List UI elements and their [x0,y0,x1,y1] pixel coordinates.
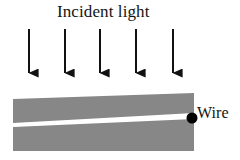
diagram-canvas [0,0,240,160]
incident-light-diagram: Incident light Wire [0,0,240,160]
wire-label: Wire [197,105,229,121]
wire-dot-icon [187,113,198,124]
incident-light-title: Incident light [57,3,150,20]
